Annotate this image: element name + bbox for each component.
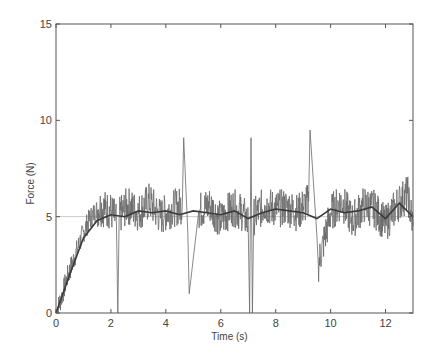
x-tick-label: 10 [324,317,336,329]
raw-force-line [56,130,413,313]
x-tick-label: 12 [379,317,391,329]
y-axis-label: Force (N) [25,162,36,204]
x-axis-ticks: 024681012 [53,24,392,329]
y-tick-label: 0 [46,307,52,319]
y-axis-ticks: 051015 [40,18,413,319]
x-axis-label: Time (s) [211,331,247,342]
raw-force-series [56,130,413,313]
y-tick-label: 15 [40,18,52,30]
y-tick-label: 10 [40,114,52,126]
force-time-chart: 024681012 051015 Time (s) Force (N) [0,0,435,360]
x-tick-label: 6 [218,317,224,329]
plot-frame [56,24,413,313]
x-tick-label: 2 [108,317,114,329]
y-tick-label: 5 [46,211,52,223]
x-tick-label: 8 [273,317,279,329]
x-tick-label: 4 [163,317,169,329]
x-tick-label: 0 [53,317,59,329]
